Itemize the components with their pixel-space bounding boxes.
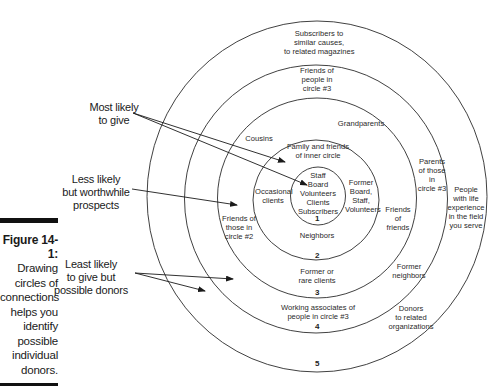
label-line: friends <box>383 223 413 232</box>
label-line: Donors <box>384 304 438 313</box>
label-line: people in circle #3 <box>278 312 358 321</box>
label-line: you serve <box>446 221 486 230</box>
caption-line: possible <box>0 334 58 349</box>
label-line: circle #2 <box>222 232 256 241</box>
label-line: Board, <box>345 187 377 196</box>
circle-5-top-label: Subscribers to similar causes, to relate… <box>284 29 354 56</box>
label-line: rare clients <box>290 276 344 285</box>
label-line: People <box>446 185 486 194</box>
caption-line: identify <box>0 319 58 334</box>
label-line: Staff, <box>345 196 377 205</box>
circle-number-3: 3 <box>315 288 319 297</box>
label-line: Volunteers <box>345 205 377 214</box>
callout-line: possible donors <box>46 284 136 297</box>
circle-1-label: Staff Board Volunteers Clients Subscribe… <box>291 171 345 216</box>
caption-top-rule <box>0 218 58 223</box>
circle-3-right-label: Friends of friends <box>383 205 413 232</box>
label-line: with life <box>446 194 486 203</box>
callout-line: to give <box>76 114 152 127</box>
label-line: circle #3 <box>416 184 448 193</box>
circle-3-top-right-label: Grandparents <box>336 119 386 128</box>
circle-3-top-left-label: Cousins <box>242 134 276 143</box>
circle-number-5: 5 <box>315 359 319 368</box>
label-line: Former <box>345 178 377 187</box>
label-line: Friends of <box>293 66 341 75</box>
caption-bottom-rule <box>0 383 58 386</box>
callout-least-likely: Least likely to give but possible donors <box>46 258 136 297</box>
circle-2-left-label: Occasional clients <box>255 187 291 205</box>
label-line: of inner circle <box>280 151 356 160</box>
label-line: to related <box>384 313 438 322</box>
label-line: neighbors <box>392 271 426 280</box>
circle-number-4: 4 <box>315 322 319 331</box>
label-line: Clients <box>291 198 345 207</box>
label-line: to related magazines <box>284 47 354 56</box>
figure-caption: Figure 14-1: Drawing circles of connecti… <box>0 218 58 386</box>
circle-3-bottom-right-label: Former neighbors <box>392 262 426 280</box>
circle-number-2: 2 <box>315 251 319 260</box>
callout-line: to give but <box>46 271 136 284</box>
circle-3-left-label: Friends of those in circle #2 <box>222 214 256 241</box>
callout-line: Less likely <box>60 173 132 186</box>
callout-line: prospects <box>60 199 132 212</box>
label-line: experience <box>446 203 486 212</box>
circle-4-bottom-right-label: Donors to related organizations <box>384 304 438 331</box>
label-line: circle #3 <box>293 84 341 93</box>
label-line: people in <box>293 75 341 84</box>
circle-5-right-label: People with life experience in the field… <box>446 185 486 230</box>
label-line: Grandparents <box>336 119 386 128</box>
label-line: Family and friends <box>280 142 356 151</box>
label-line: Neighbors <box>294 231 340 240</box>
label-line: in the field <box>446 212 486 221</box>
label-line: Friends <box>383 205 413 214</box>
label-line: Former or <box>290 267 344 276</box>
circle-4-top-label: Friends of people in circle #3 <box>293 66 341 93</box>
circle-3-bottom-label: Former or rare clients <box>290 267 344 285</box>
label-line: similar causes, <box>284 38 354 47</box>
caption-line: individual <box>0 348 58 363</box>
circle-2-top-label: Family and friends of inner circle <box>280 142 356 160</box>
callout-less-likely: Less likely but worthwhile prospects <box>60 173 132 212</box>
callout-line: but worthwhile <box>60 186 132 199</box>
arrow-least-likely-to-circle-5 <box>135 273 205 291</box>
circle-4-right-label: Parents of those in circle #3 <box>416 157 448 193</box>
label-line: clients <box>255 196 291 205</box>
label-line: Board <box>291 180 345 189</box>
callout-line: Least likely <box>46 258 136 271</box>
label-line: Working associates of <box>278 303 358 312</box>
circle-4-bottom-label: Working associates of people in circle #… <box>278 303 358 321</box>
label-line: Occasional <box>255 187 291 196</box>
label-line: Parents <box>416 157 448 166</box>
label-line: Former <box>392 262 426 271</box>
circle-number-1: 1 <box>315 214 319 223</box>
label-line: Friends of <box>222 214 256 223</box>
figure-label: Figure 14-1: <box>0 233 58 261</box>
callout-most-likely: Most likely to give <box>76 101 152 127</box>
label-line: of those <box>416 166 448 175</box>
circle-2-bottom-label: Neighbors <box>294 231 340 240</box>
caption-line: donors. <box>0 363 58 378</box>
label-line: Subscribers to <box>284 29 354 38</box>
label-line: Volunteers <box>291 189 345 198</box>
caption-line: helps you <box>0 305 58 320</box>
label-line: organizations <box>384 322 438 331</box>
label-line: those in <box>222 223 256 232</box>
arrow-least-likely-to-circle-4 <box>135 273 233 279</box>
label-line: Cousins <box>242 134 276 143</box>
label-line: Staff <box>291 171 345 180</box>
label-line: in <box>416 175 448 184</box>
callout-line: Most likely <box>76 101 152 114</box>
circle-2-right-label: Former Board, Staff, Volunteers <box>345 178 377 214</box>
label-line: of <box>383 214 413 223</box>
